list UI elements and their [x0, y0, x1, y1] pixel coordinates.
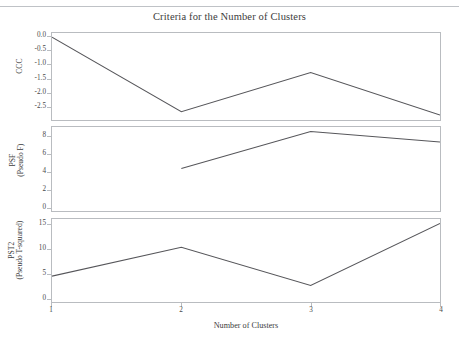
y-tick-label: 10 — [2, 245, 46, 252]
y-tick-label: 15 — [2, 220, 46, 227]
x-tick-label: 2 — [179, 307, 183, 314]
x-tick-label: 4 — [439, 307, 443, 314]
y-tick-label: 0 — [2, 295, 46, 302]
page-title: Criteria for the Number of Clusters — [0, 11, 459, 22]
y-tick-label: 2 — [2, 187, 46, 194]
plot-panel-psf — [51, 126, 441, 212]
y-tick-label: 5 — [2, 270, 46, 277]
psf-data-line — [181, 131, 440, 168]
y-tick-label: -1.0 — [2, 61, 46, 68]
header-divider — [0, 6, 459, 7]
y-tick-label: 0 — [2, 205, 46, 212]
plot-panel-pst2 — [51, 218, 441, 303]
y-tick-label: -2.5 — [2, 103, 46, 110]
x-tick-label: 1 — [49, 307, 53, 314]
y-tick-label: 8 — [2, 132, 46, 139]
ccc-series-plot — [52, 33, 440, 120]
x-tick-label: 3 — [309, 307, 313, 314]
y-tick-label: 4 — [2, 169, 46, 176]
pst2-data-line — [52, 223, 440, 285]
y-tick-label: 0.0 — [2, 33, 46, 40]
x-axis-title: Number of Clusters — [51, 321, 441, 330]
chart-figure: Criteria for the Number of Clusters CCC … — [0, 0, 459, 349]
y-tick-label: 6 — [2, 150, 46, 157]
psf-series-plot — [52, 127, 440, 211]
y-tick-label: -1.5 — [2, 75, 46, 82]
y-tick-label: -0.5 — [2, 47, 46, 54]
pst2-series-plot — [52, 219, 440, 302]
ccc-data-line — [52, 37, 440, 115]
y-tick-label: -2.0 — [2, 89, 46, 96]
plot-panel-ccc — [51, 32, 441, 121]
